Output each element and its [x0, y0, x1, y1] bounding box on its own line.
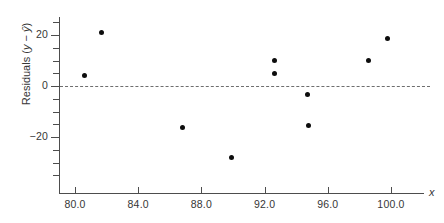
residual-plot: 200−2080.084.088.092.096.0100.0 Residual… [0, 0, 444, 223]
y-axis-title-yhat: ŷ [20, 27, 32, 33]
y-axis-title: Residuals (y − ŷ) [20, 0, 32, 134]
data-points-layer [0, 0, 444, 223]
y-axis-title-suffix: ) [20, 23, 32, 27]
data-point [366, 58, 371, 63]
data-point [385, 36, 390, 41]
data-point [272, 58, 277, 63]
data-point [272, 71, 277, 76]
y-axis-title-minus: − [20, 32, 32, 45]
data-point [306, 123, 311, 128]
data-point [229, 155, 234, 160]
y-axis-title-prefix: Residuals ( [20, 50, 32, 105]
y-axis-title-y: y [20, 45, 32, 51]
data-point [82, 73, 87, 78]
x-axis-title: x [429, 186, 435, 198]
data-point [305, 92, 310, 97]
data-point [180, 125, 185, 130]
data-point [99, 30, 104, 35]
